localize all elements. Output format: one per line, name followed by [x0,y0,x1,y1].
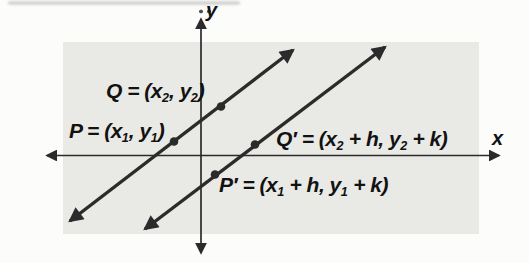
label-point-P-prime: P′ = (x1 + h, y1 + k) [219,174,388,195]
label-text: y [330,173,341,196]
label-text: , [169,79,180,102]
label-text: x [111,119,122,142]
label-text: + h, [284,173,329,196]
label-subscript: 1 [122,131,129,145]
point-P-dot [170,137,179,146]
label-text: ) [198,79,205,102]
point-P-prime-dot [211,170,220,179]
label-text: Q′ = ( [276,127,325,150]
label-text: + k) [348,173,388,196]
label-text: + h, [344,127,389,150]
label-point-Q-prime: Q′ = (x2 + h, y2 + k) [276,128,447,149]
label-text: x [151,79,162,102]
label-subscript: 2 [400,139,407,153]
label-text: + k) [407,127,447,150]
label-text: y [140,119,151,142]
label-point-P: P = (x1, y1) [69,120,164,141]
label-text: , [129,119,140,142]
label-subscript: 1 [151,131,158,145]
label-subscript: 1 [341,185,348,199]
point-Q-dot [217,102,226,111]
figure-page: { "figure": { "axes": { "x_label": "x", … [0,0,529,263]
label-text: P = ( [69,119,111,142]
label-text: P′ = ( [219,173,266,196]
label-text: Q = ( [106,79,151,102]
y-axis-label: y [206,0,217,20]
label-subscript: 2 [191,91,198,105]
label-text: ) [158,119,165,142]
label-text: x [325,127,336,150]
point-Q-prime-dot [251,140,260,149]
label-text: y [389,127,400,150]
label-subscript: 2 [162,91,169,105]
label-point-Q: Q = (x2, y2) [106,80,204,101]
label-text: x [266,173,277,196]
x-axis-label: x [492,128,503,148]
label-text: y [180,79,191,102]
label-subscript: 2 [336,139,343,153]
label-subscript: 1 [277,185,284,199]
